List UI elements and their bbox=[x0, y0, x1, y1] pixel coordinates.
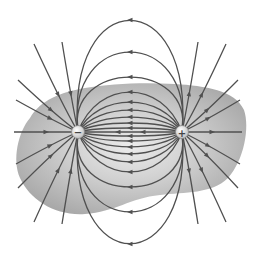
field-arrow-icon bbox=[127, 50, 133, 54]
field-lines bbox=[14, 18, 242, 246]
positive-sign: + bbox=[178, 128, 186, 139]
field-arrow-icon bbox=[127, 242, 133, 246]
field-arrow-icon bbox=[127, 18, 133, 22]
negative-sign: − bbox=[74, 127, 82, 138]
negative-charge: − bbox=[72, 126, 85, 139]
dipole-field-diagram: − + bbox=[0, 0, 255, 258]
field-arrow-icon bbox=[127, 75, 133, 79]
field-arrow-icon bbox=[127, 210, 133, 214]
positive-charge: + bbox=[176, 126, 189, 139]
